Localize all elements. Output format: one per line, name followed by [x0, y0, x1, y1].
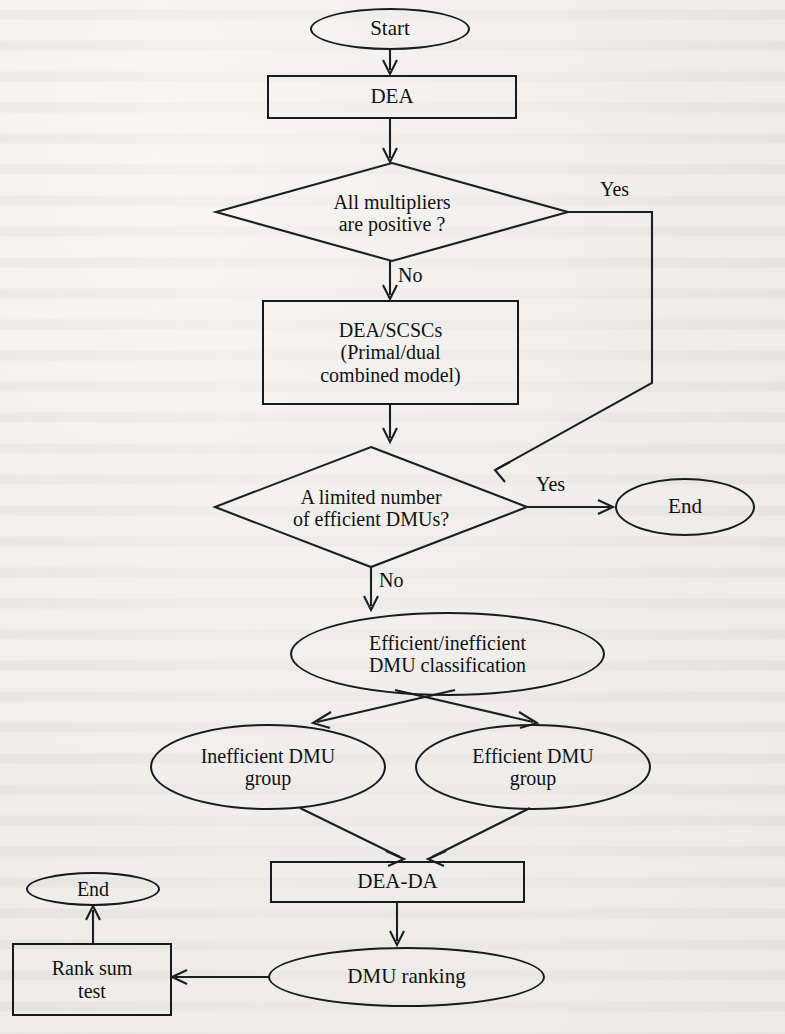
node-multipliers[interactable]: All multipliers are positive ?	[262, 182, 522, 244]
node-end-left-label: End	[77, 878, 109, 900]
node-classification-line1: Efficient/inefficient	[369, 632, 526, 654]
node-efficient-group-line1: Efficient DMU	[472, 745, 593, 767]
node-scscs-line2: (Primal/dual	[341, 341, 441, 363]
edge-multipliers-yes	[497, 212, 652, 469]
node-classification-line2: DMU classification	[369, 654, 526, 676]
node-end-left[interactable]: End	[26, 872, 160, 906]
node-scscs[interactable]: DEA/SCSCs (Primal/dual combined model)	[262, 300, 519, 405]
flowchart: Start DEA All multipliers are positive ?…	[0, 0, 785, 1034]
node-classification[interactable]: Efficient/inefficient DMU classification	[290, 612, 605, 696]
node-rank-sum-test-line2: test	[78, 980, 106, 1002]
node-efficient-group[interactable]: Efficient DMU group	[415, 724, 651, 810]
edge-inefficient-to-deada	[300, 808, 400, 857]
node-end-right[interactable]: End	[615, 478, 755, 536]
node-inefficient-group-line2: group	[245, 767, 292, 789]
node-rank-sum-test[interactable]: Rank sum test	[12, 943, 172, 1016]
node-start-label: Start	[370, 17, 410, 41]
edge-efficient-to-deada	[432, 808, 530, 857]
node-rank-sum-test-line1: Rank sum	[52, 957, 133, 979]
node-dea-da[interactable]: DEA-DA	[270, 861, 525, 903]
node-efficient-group-line2: group	[510, 767, 557, 789]
node-dmu-ranking[interactable]: DMU ranking	[268, 947, 545, 1007]
node-scscs-line3: combined model)	[320, 364, 461, 386]
node-limited-line1: A limited number	[300, 486, 441, 508]
edge-label-limited-yes: Yes	[536, 473, 565, 496]
node-limited-line2: of efficient DMUs?	[293, 508, 449, 530]
node-dea-da-label: DEA-DA	[357, 870, 437, 894]
node-dea[interactable]: DEA	[267, 75, 517, 119]
node-dea-label: DEA	[370, 85, 413, 109]
node-multipliers-line1: All multipliers	[333, 191, 450, 213]
node-inefficient-group[interactable]: Inefficient DMU group	[150, 724, 386, 810]
edge-label-multipliers-no: No	[398, 264, 422, 287]
node-start[interactable]: Start	[310, 8, 470, 50]
node-end-right-label: End	[668, 495, 702, 519]
node-limited[interactable]: A limited number of efficient DMUs?	[241, 477, 501, 539]
node-inefficient-group-line1: Inefficient DMU	[201, 745, 336, 767]
node-scscs-line1: DEA/SCSCs	[339, 319, 442, 341]
node-multipliers-line2: are positive ?	[339, 213, 446, 235]
edge-label-multipliers-yes: Yes	[600, 178, 629, 201]
node-dmu-ranking-label: DMU ranking	[347, 965, 465, 989]
edge-label-limited-no: No	[379, 569, 403, 592]
